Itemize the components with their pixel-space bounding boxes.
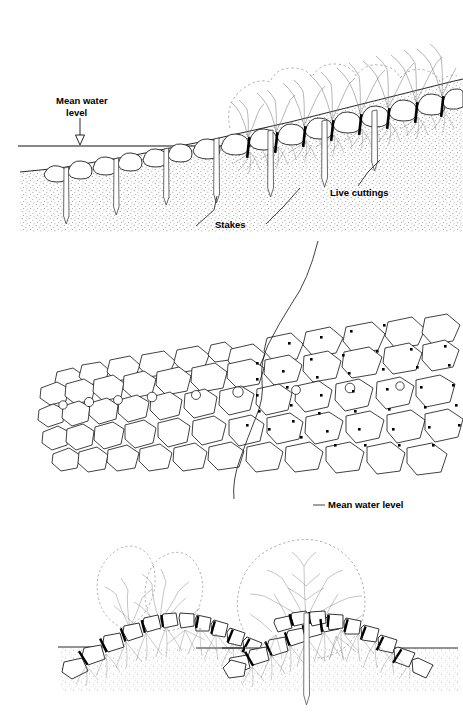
panel-section-details [58,539,460,705]
label-stakes: Stakes [215,219,246,230]
stake [164,148,169,205]
label-mean-water-level-line1: Mean water [56,95,108,106]
section-detail-right [222,539,460,705]
label-live-cuttings: Live cuttings [330,187,389,198]
stake [64,167,69,224]
label-mean-water-level-line2: level [66,107,87,118]
panel-profile-view: Mean water level [18,44,463,232]
technical-illustration: Mean water level [0,0,463,713]
label-mean-water-level-plan: Mean water level [328,499,404,510]
panel-plan-view: Mean water level [38,241,463,510]
stake [268,130,274,197]
stake [114,158,119,215]
riprap-plan-rocks [38,314,463,475]
mean-water-level-arrow [76,118,85,145]
figure-root: Mean water level [0,0,463,713]
shrub-canopy-left-lobe1 [97,546,155,628]
stake [372,110,378,171]
stake [214,138,220,203]
center-stake-right [304,613,310,705]
stake [322,120,328,187]
